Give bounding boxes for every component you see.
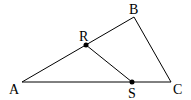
label-r: R: [79, 29, 89, 44]
label-a: A: [9, 82, 20, 97]
label-s: S: [128, 86, 136, 100]
segment-rs: [86, 45, 132, 82]
label-b: B: [129, 2, 138, 17]
segment-ab: [22, 17, 134, 82]
point-s-dot: [130, 80, 135, 85]
label-c: C: [173, 82, 182, 97]
triangle-diagram: A B R S C: [0, 0, 191, 100]
segment-bc: [134, 17, 171, 82]
